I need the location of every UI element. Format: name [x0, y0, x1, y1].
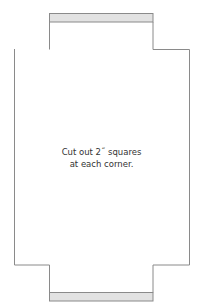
- instruction-caption: Cut out 2˝ squares at each corner.: [14, 146, 189, 170]
- caption-line-1: Cut out 2˝ squares: [14, 146, 189, 158]
- caption-line-2: at each corner.: [14, 158, 189, 170]
- top-tab: [50, 14, 154, 23]
- bottom-tab: [50, 293, 154, 302]
